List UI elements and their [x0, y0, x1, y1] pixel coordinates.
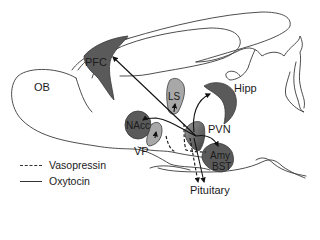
label-ls: LS: [168, 91, 181, 102]
label-pituitary: Pituitary: [190, 184, 230, 196]
label-vp: VP: [134, 145, 149, 157]
legend-label: Vasopressin: [49, 159, 106, 171]
label-pvn: PVN: [208, 123, 231, 135]
label-bst: BST: [212, 161, 231, 172]
label-pfc: PFC: [85, 56, 107, 68]
label-amy: Amy: [210, 150, 230, 161]
label-ob: OB: [34, 81, 50, 93]
region-hipp: [204, 83, 236, 124]
legend-item-vasopressin: Vasopressin: [20, 157, 106, 173]
region-pfc: [84, 36, 128, 100]
legend: Vasopressin Oxytocin: [20, 157, 106, 189]
label-hipp: Hipp: [234, 82, 257, 94]
vp-dashed-left: [166, 136, 176, 152]
legend-item-oxytocin: Oxytocin: [20, 173, 106, 189]
legend-label: Oxytocin: [49, 175, 90, 187]
label-nacc: NAcc: [126, 120, 150, 131]
solid-line-icon: [20, 181, 42, 182]
dashed-line-icon: [20, 165, 42, 166]
